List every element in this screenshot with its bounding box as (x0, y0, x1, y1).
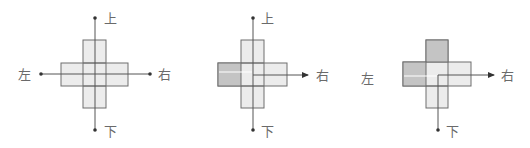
shaded-left-cell (403, 62, 426, 86)
shaded-left-cell (218, 63, 241, 86)
label-up: 上 (261, 11, 274, 26)
figure-2: 上 下 右 (218, 11, 329, 139)
figure-3: 下 左 右 (361, 40, 514, 139)
label-right: 右 (501, 68, 514, 83)
shaded-top-cell (426, 40, 448, 62)
label-down: 下 (446, 124, 459, 139)
cross-diagrams: 上 下 左 右 上 下 右 下 左 右 (0, 0, 530, 148)
label-down: 下 (104, 124, 117, 139)
label-right: 右 (316, 68, 329, 83)
label-up: 上 (104, 11, 117, 26)
label-left: 左 (361, 71, 374, 86)
label-left: 左 (18, 67, 31, 82)
label-right: 右 (158, 67, 171, 82)
label-down: 下 (261, 124, 274, 139)
figure-1: 上 下 左 右 (18, 11, 171, 139)
